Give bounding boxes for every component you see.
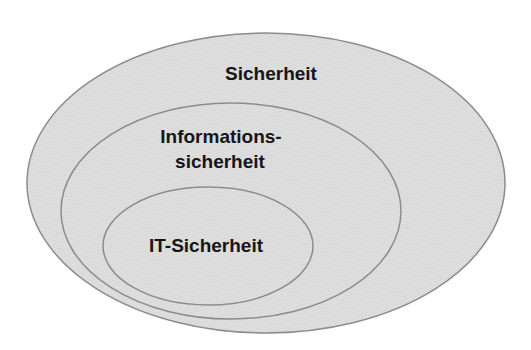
nested-sets-diagram: Sicherheit Informations- sicherheit IT-S… <box>0 0 531 350</box>
label-informationssicherheit-line2: sicherheit <box>175 151 265 172</box>
diagram-svg: Sicherheit Informations- sicherheit IT-S… <box>0 0 531 350</box>
label-sicherheit: Sicherheit <box>225 63 318 84</box>
label-it-sicherheit: IT-Sicherheit <box>149 235 264 256</box>
label-informationssicherheit-line1: Informations- <box>160 126 281 147</box>
